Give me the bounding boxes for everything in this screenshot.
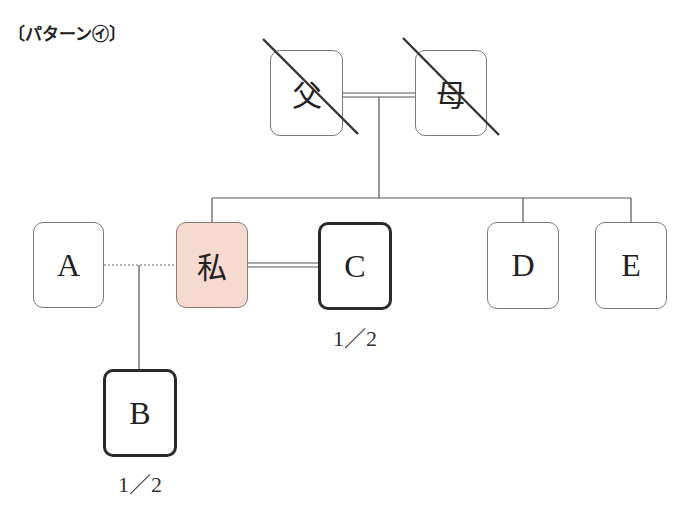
person-b-label: B — [129, 395, 150, 432]
person-a-label: A — [57, 247, 80, 284]
person-c-label: C — [344, 248, 365, 285]
person-e-box: E — [595, 222, 667, 309]
c-share-label: 1／2 — [315, 320, 395, 352]
person-d-box: D — [487, 222, 559, 309]
b-share-label: 1／2 — [100, 466, 180, 498]
person-e-label: E — [621, 247, 641, 284]
father-label: 父 — [292, 71, 322, 115]
person-b-box: B — [103, 369, 177, 457]
person-c-box: C — [318, 222, 392, 310]
father-box: 父 — [270, 50, 343, 136]
self-box: 私 — [176, 222, 248, 308]
self-c-marriage-line — [248, 263, 318, 267]
mother-box: 母 — [415, 50, 487, 136]
person-d-label: D — [511, 247, 534, 284]
person-a-box: A — [33, 222, 104, 308]
self-label: 私 — [197, 243, 227, 287]
parents-marriage-line — [343, 93, 415, 97]
mother-label: 母 — [436, 71, 466, 115]
